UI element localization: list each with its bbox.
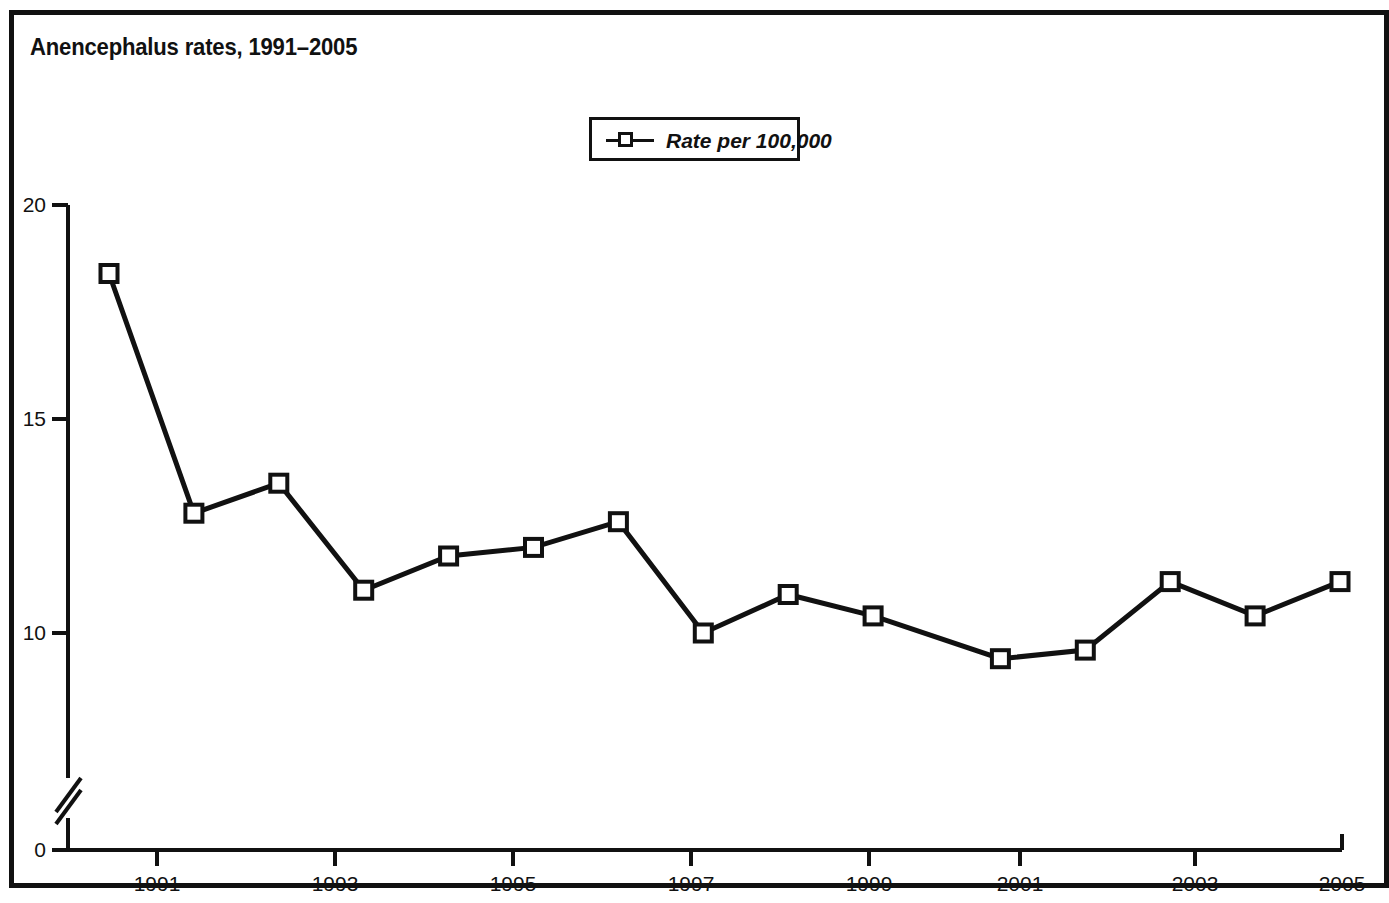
data-series-rate-per-100000: [101, 265, 1349, 667]
data-point-marker: [355, 582, 372, 599]
data-point-marker: [1332, 573, 1349, 590]
data-point-marker: [1247, 607, 1264, 624]
x-axis-label-1995: 1995: [490, 872, 537, 896]
x-axis-label-2001: 2001: [997, 872, 1044, 896]
data-point-marker: [695, 625, 712, 642]
data-point-marker: [101, 265, 118, 282]
y-axis-label-0: 0: [0, 838, 46, 862]
data-point-marker: [1077, 642, 1094, 659]
x-axis-label-1999: 1999: [846, 872, 893, 896]
data-point-marker: [1162, 573, 1179, 590]
y-axis-label-15: 15: [0, 407, 46, 431]
x-axis-label-2005: 2005: [1319, 872, 1366, 896]
x-axis-label-1993: 1993: [312, 872, 359, 896]
data-point-marker: [865, 607, 882, 624]
x-axis-label-2003: 2003: [1172, 872, 1219, 896]
data-point-marker: [780, 586, 797, 603]
y-axis-label-10: 10: [0, 621, 46, 645]
data-point-marker: [440, 548, 457, 565]
series-line: [109, 274, 1340, 659]
x-axis-label-1991: 1991: [134, 872, 181, 896]
data-point-marker: [610, 513, 627, 530]
chart-legend: Rate per 100,000: [589, 117, 800, 161]
y-axis-break-icon: [56, 778, 81, 824]
x-axis-label-1997: 1997: [668, 872, 715, 896]
data-point-marker: [270, 475, 287, 492]
data-point-marker: [525, 539, 542, 556]
data-point-marker: [185, 505, 202, 522]
legend-square-marker-icon: [618, 132, 633, 147]
y-axis-label-20: 20: [0, 193, 46, 217]
legend-entry-label: Rate per 100,000: [666, 129, 832, 153]
data-point-marker: [992, 650, 1009, 667]
